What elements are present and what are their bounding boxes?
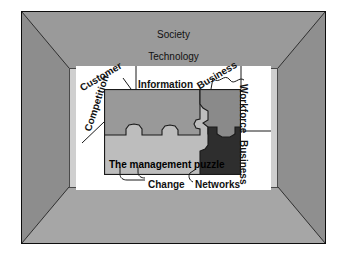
label-technology: Technology [0, 52, 347, 62]
label-networks: Networks [195, 180, 240, 190]
label-workforce: Workforce [238, 84, 248, 133]
label-business-right: Business [238, 140, 248, 184]
label-society: Society [0, 30, 347, 40]
puzzle-piece-top-left [104, 89, 200, 135]
label-management-puzzle: The management puzzle [109, 160, 225, 170]
label-information: Information [138, 80, 193, 90]
label-change: Change [148, 180, 185, 190]
diagram-canvas: Society Technology Customer Information … [0, 0, 347, 259]
